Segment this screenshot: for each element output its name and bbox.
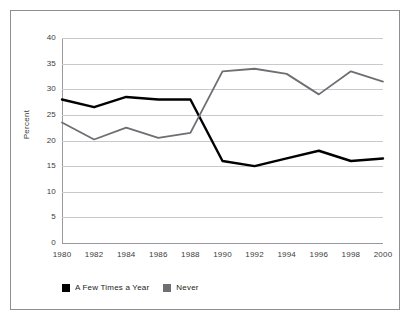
y-tick-label: 5	[30, 212, 56, 221]
legend-label: A Few Times a Year	[75, 283, 149, 292]
y-tick-label: 40	[30, 33, 56, 42]
y-tick-label: 30	[30, 84, 56, 93]
y-tick-label: 35	[30, 59, 56, 68]
y-tick-label: 0	[30, 238, 56, 247]
series-lines	[62, 38, 383, 243]
legend-label: Never	[176, 283, 198, 292]
series-line-a-few-times-a-year	[62, 97, 383, 166]
y-axis-title: Percent	[22, 95, 31, 155]
y-axis-tick-labels: 4035302520151050	[26, 38, 56, 243]
y-tick-label: 25	[30, 110, 56, 119]
series-line-never	[62, 69, 383, 140]
legend-item[interactable]: A Few Times a Year	[62, 283, 149, 292]
legend-swatch-icon	[163, 284, 171, 292]
legend-swatch-icon	[62, 284, 70, 292]
x-tick-label: 2000	[363, 250, 403, 259]
x-axis-tick-labels: 1980198219841986198819901992199419961998…	[62, 250, 383, 264]
y-tick-label: 10	[30, 187, 56, 196]
y-tick-label: 15	[30, 161, 56, 170]
y-tick-label: 20	[30, 136, 56, 145]
legend-item[interactable]: Never	[163, 283, 198, 292]
gridline-0	[62, 243, 383, 244]
chart-legend: A Few Times a YearNever	[62, 283, 199, 292]
chart-figure: 4035302520151050 Percent 198019821984198…	[0, 0, 413, 322]
